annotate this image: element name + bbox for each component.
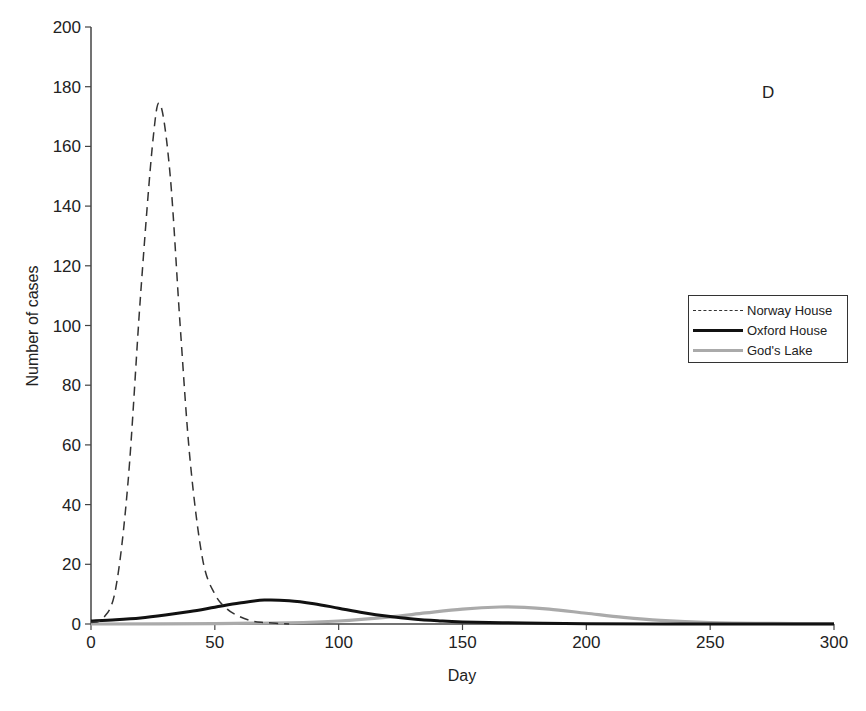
x-tick-label: 300 — [820, 633, 848, 652]
x-tick-label: 100 — [324, 633, 352, 652]
legend-label: Oxford House — [747, 323, 827, 338]
y-tick-label: 0 — [72, 615, 81, 634]
y-tick-label: 120 — [53, 257, 81, 276]
legend-label: Norway House — [747, 303, 832, 318]
legend-item-gods-lake: God's Lake — [693, 340, 843, 360]
legend-item-norway-house: Norway House — [693, 300, 843, 320]
y-tick-label: 40 — [62, 496, 81, 515]
legend-item-oxford-house: Oxford House — [693, 320, 843, 340]
chart-legend: Norway House Oxford House God's Lake — [688, 295, 848, 363]
y-tick-label: 100 — [53, 317, 81, 336]
series-line-oxford-house — [91, 600, 834, 624]
x-tick-label: 0 — [86, 633, 95, 652]
x-tick-label: 200 — [572, 633, 600, 652]
chart-lines — [91, 103, 834, 624]
y-tick-label: 180 — [53, 78, 81, 97]
y-tick-label: 140 — [53, 197, 81, 216]
panel-label: D — [762, 83, 774, 102]
y-tick-label: 20 — [62, 555, 81, 574]
series-line-norway-house — [91, 103, 289, 624]
light-line-swatch-icon — [693, 349, 743, 352]
y-tick-label: 80 — [62, 376, 81, 395]
y-tick-label: 160 — [53, 137, 81, 156]
x-axis-title: Day — [448, 667, 476, 684]
solid-line-swatch-icon — [693, 329, 743, 332]
y-tick-label: 200 — [53, 18, 81, 37]
dashed-line-swatch-icon — [693, 310, 743, 311]
y-tick-label: 60 — [62, 436, 81, 455]
legend-label: God's Lake — [747, 343, 812, 358]
x-tick-label: 50 — [205, 633, 224, 652]
x-tick-label: 250 — [696, 633, 724, 652]
x-tick-label: 150 — [448, 633, 476, 652]
y-axis-title: Number of cases — [24, 266, 41, 387]
